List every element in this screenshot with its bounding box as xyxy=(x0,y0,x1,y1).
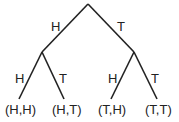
edge-label-t-h: H xyxy=(108,72,117,85)
outcome-hh: (H,H) xyxy=(5,103,36,116)
edge-label-t-t: T xyxy=(151,72,159,85)
edge-label-root-h: H xyxy=(51,20,60,33)
edge-root-h xyxy=(42,4,88,52)
edge-label-h-t: T xyxy=(59,72,67,85)
outcome-tt: (T,T) xyxy=(145,103,172,116)
edge-label-h-h: H xyxy=(15,72,24,85)
outcome-th: (T,H) xyxy=(98,103,126,116)
edge-root-t xyxy=(88,4,134,52)
edge-label-root-t: T xyxy=(117,20,125,33)
outcome-ht: (H,T) xyxy=(52,103,82,116)
